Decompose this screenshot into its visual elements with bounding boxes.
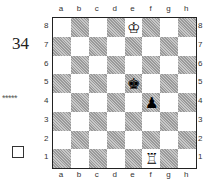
rank-label: 5	[44, 77, 48, 86]
square-c5[interactable]	[89, 74, 107, 93]
diagram-number: 34	[12, 34, 29, 54]
square-h4[interactable]	[178, 93, 196, 112]
square-a5[interactable]	[53, 74, 71, 93]
square-g7[interactable]	[160, 37, 178, 56]
square-g4[interactable]	[160, 93, 178, 112]
square-d3[interactable]	[107, 112, 125, 131]
square-g8[interactable]	[160, 18, 178, 37]
square-a4[interactable]	[53, 93, 71, 112]
chess-board: ♔♚♟♖	[52, 17, 197, 169]
file-label: c	[88, 170, 106, 179]
file-label: e	[124, 170, 142, 179]
square-f5[interactable]	[142, 74, 160, 93]
rank-label: 8	[44, 21, 48, 30]
square-f3[interactable]	[142, 112, 160, 131]
solution-checkbox[interactable]	[12, 146, 24, 158]
square-g3[interactable]	[160, 112, 178, 131]
rank-label: 8	[198, 21, 202, 30]
file-label: f	[142, 4, 160, 13]
square-b2[interactable]	[71, 131, 89, 150]
file-label: h	[177, 170, 195, 179]
square-d7[interactable]	[107, 37, 125, 56]
square-f7[interactable]	[142, 37, 160, 56]
square-c6[interactable]	[89, 56, 107, 75]
square-e6[interactable]	[125, 56, 143, 75]
square-g6[interactable]	[160, 56, 178, 75]
square-b1[interactable]	[71, 149, 89, 168]
square-c8[interactable]	[89, 18, 107, 37]
square-a8[interactable]	[53, 18, 71, 37]
black-king-icon[interactable]: ♚	[127, 76, 140, 91]
square-b3[interactable]	[71, 112, 89, 131]
square-h7[interactable]	[178, 37, 196, 56]
black-pawn-icon[interactable]: ♟	[145, 95, 158, 110]
square-c1[interactable]	[89, 149, 107, 168]
file-label: d	[106, 170, 124, 179]
square-a2[interactable]	[53, 131, 71, 150]
square-d2[interactable]	[107, 131, 125, 150]
square-h6[interactable]	[178, 56, 196, 75]
square-e2[interactable]	[125, 131, 143, 150]
square-d4[interactable]	[107, 93, 125, 112]
rank-label: 1	[198, 152, 202, 161]
square-e7[interactable]	[125, 37, 143, 56]
square-a6[interactable]	[53, 56, 71, 75]
rank-label: 7	[198, 40, 202, 49]
rank-label: 6	[198, 59, 202, 68]
square-f2[interactable]	[142, 131, 160, 150]
rank-label: 7	[44, 40, 48, 49]
square-f6[interactable]	[142, 56, 160, 75]
file-label: a	[52, 4, 70, 13]
square-h5[interactable]	[178, 74, 196, 93]
file-label: b	[70, 170, 88, 179]
square-b8[interactable]	[71, 18, 89, 37]
rank-label: 4	[198, 96, 202, 105]
file-label: f	[142, 170, 160, 179]
square-e3[interactable]	[125, 112, 143, 131]
square-d6[interactable]	[107, 56, 125, 75]
square-g5[interactable]	[160, 74, 178, 93]
file-label: g	[159, 4, 177, 13]
rank-label: 3	[198, 115, 202, 124]
rank-label: 6	[44, 59, 48, 68]
file-label: g	[159, 170, 177, 179]
rank-label: 5	[198, 77, 202, 86]
square-h8[interactable]	[178, 18, 196, 37]
square-d8[interactable]	[107, 18, 125, 37]
square-b6[interactable]	[71, 56, 89, 75]
white-rook-icon[interactable]: ♖	[145, 151, 158, 166]
rank-label: 2	[198, 134, 202, 143]
rank-label: 1	[44, 152, 48, 161]
difficulty-stars: *****	[2, 93, 17, 103]
square-c4[interactable]	[89, 93, 107, 112]
square-e5[interactable]: ♚	[125, 74, 143, 93]
rank-label: 2	[44, 134, 48, 143]
square-e4[interactable]	[125, 93, 143, 112]
square-g1[interactable]	[160, 149, 178, 168]
square-e1[interactable]	[125, 149, 143, 168]
square-d5[interactable]	[107, 74, 125, 93]
square-f4[interactable]: ♟	[142, 93, 160, 112]
square-c7[interactable]	[89, 37, 107, 56]
square-h1[interactable]	[178, 149, 196, 168]
rank-label: 4	[44, 96, 48, 105]
square-f1[interactable]: ♖	[142, 149, 160, 168]
square-h3[interactable]	[178, 112, 196, 131]
square-a3[interactable]	[53, 112, 71, 131]
white-king-icon[interactable]: ♔	[127, 20, 140, 35]
file-label: b	[70, 4, 88, 13]
square-c2[interactable]	[89, 131, 107, 150]
file-label: c	[88, 4, 106, 13]
square-e8[interactable]: ♔	[125, 18, 143, 37]
square-a1[interactable]	[53, 149, 71, 168]
square-f8[interactable]	[142, 18, 160, 37]
square-b5[interactable]	[71, 74, 89, 93]
square-g2[interactable]	[160, 131, 178, 150]
square-b4[interactable]	[71, 93, 89, 112]
square-d1[interactable]	[107, 149, 125, 168]
square-a7[interactable]	[53, 37, 71, 56]
square-h2[interactable]	[178, 131, 196, 150]
file-label: a	[52, 170, 70, 179]
square-b7[interactable]	[71, 37, 89, 56]
square-c3[interactable]	[89, 112, 107, 131]
